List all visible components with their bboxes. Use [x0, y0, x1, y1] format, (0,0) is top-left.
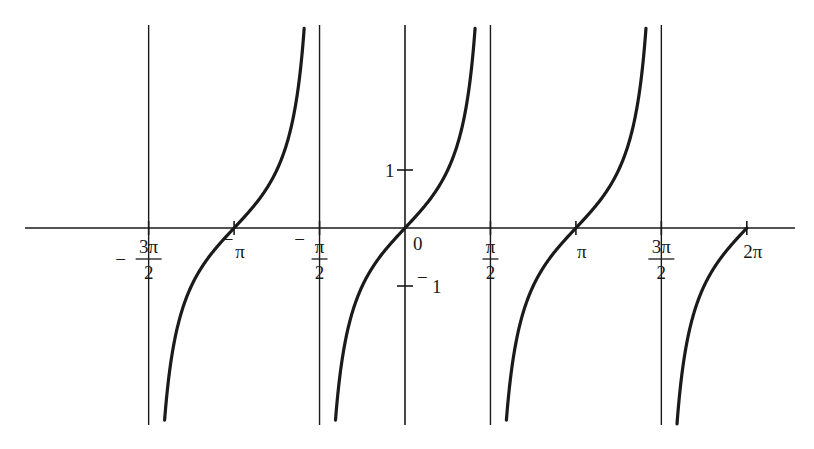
x-tick-label-denominator: 2: [486, 262, 496, 283]
minus-sign: −: [223, 229, 234, 250]
tangent-plot: 3π2−−ππ2−0π2π3π22π 1−1: [0, 0, 814, 449]
minus-sign: −: [417, 267, 428, 288]
x-tick-label-0: 0: [413, 233, 423, 254]
minus-sign: −: [115, 249, 126, 270]
x-tick-label-numerator: π: [486, 236, 496, 257]
x-tick-label: 2π: [743, 241, 763, 262]
y-tick-label: 1: [385, 160, 395, 181]
tan-branch: [677, 228, 747, 424]
x-tick-label-numerator: 3π: [652, 236, 672, 257]
x-tick-label-denominator: 2: [657, 262, 667, 283]
x-tick-label-numerator: π: [315, 236, 325, 257]
y-tick-label: 1: [432, 276, 442, 297]
x-tick-label-numerator: 3π: [139, 236, 159, 257]
x-tick-label-denominator: 2: [144, 262, 154, 283]
x-tick-label: π: [577, 241, 587, 262]
x-tick-label-denominator: 2: [315, 262, 325, 283]
tan-curves: [165, 28, 747, 423]
minus-sign: −: [294, 229, 305, 250]
x-tick-label: π: [235, 241, 245, 262]
